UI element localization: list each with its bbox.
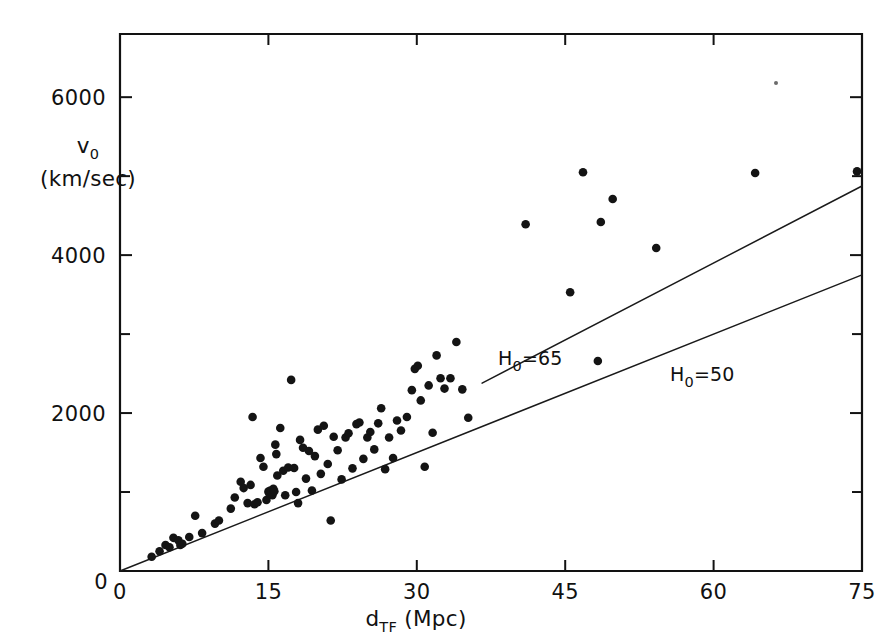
- data-point: [348, 464, 357, 473]
- artifact-speck: [774, 81, 778, 85]
- data-point: [366, 428, 375, 437]
- axis-frame-path: [120, 34, 862, 571]
- data-point: [397, 426, 406, 435]
- x-tick-label-0: 0: [113, 580, 127, 604]
- data-point: [333, 446, 342, 455]
- data-point: [359, 455, 368, 464]
- data-point: [185, 533, 194, 542]
- y-axis-label-unit: (km/sec): [40, 166, 136, 191]
- data-point: [259, 462, 268, 471]
- x-tick-labels-group: 01530456075: [113, 580, 876, 604]
- data-point: [446, 374, 455, 383]
- data-point: [308, 486, 317, 495]
- data-point: [594, 357, 603, 366]
- data-point: [292, 488, 301, 497]
- data-point: [296, 436, 305, 445]
- data-point: [302, 474, 311, 483]
- data-point: [464, 413, 473, 422]
- y-tick-label-0: 0: [94, 570, 108, 594]
- data-point: [416, 396, 425, 405]
- data-point: [608, 195, 617, 204]
- axes-frame: [120, 34, 862, 571]
- x-tick-label-15: 15: [255, 580, 283, 604]
- data-point: [377, 404, 386, 413]
- data-point: [381, 465, 390, 474]
- reference-line-H0-50: [120, 275, 862, 571]
- figure-container: 01530456075 0200040006000 v0 (km/sec) dT…: [0, 0, 890, 644]
- data-point: [579, 168, 588, 177]
- data-point: [281, 491, 290, 500]
- scatter-plot-svg: 01530456075 0200040006000 v0 (km/sec) dT…: [0, 0, 890, 644]
- data-point: [521, 220, 530, 229]
- data-point: [403, 413, 412, 422]
- data-point: [751, 169, 760, 178]
- data-point: [253, 498, 262, 507]
- y-axis-label-symbol-line: v0: [77, 133, 100, 162]
- data-point: [270, 487, 279, 496]
- data-point: [432, 351, 441, 360]
- data-point: [290, 464, 299, 473]
- x-axis-label: dTF (Mpc): [365, 606, 466, 635]
- data-point: [424, 381, 433, 390]
- data-point: [215, 516, 224, 525]
- data-point: [853, 167, 862, 176]
- data-point: [276, 424, 285, 433]
- data-point: [227, 504, 236, 513]
- data-point: [597, 218, 606, 227]
- data-point: [230, 493, 239, 502]
- data-point: [389, 454, 398, 463]
- data-point: [374, 419, 383, 428]
- data-point: [408, 386, 417, 395]
- data-point: [165, 543, 174, 552]
- annotation-H0-50: H0=50: [670, 363, 735, 390]
- data-point: [566, 288, 575, 297]
- data-point: [355, 418, 364, 427]
- data-point: [436, 374, 445, 383]
- y-axis-label: v0 (km/sec): [40, 133, 136, 191]
- data-point: [246, 481, 255, 490]
- data-point: [385, 433, 394, 442]
- hubble-constant-annotations: H0=65H0=50: [498, 347, 735, 390]
- data-point: [329, 432, 338, 441]
- data-point: [458, 385, 467, 394]
- data-point: [452, 338, 461, 347]
- y-tick-label-6000: 6000: [51, 86, 106, 110]
- artifact-specks-group: [774, 81, 778, 85]
- x-tick-label-60: 60: [700, 580, 728, 604]
- y-tick-label-2000: 2000: [51, 402, 106, 426]
- data-point: [344, 429, 353, 438]
- x-tick-label-30: 30: [403, 580, 431, 604]
- data-point: [317, 470, 326, 479]
- data-point: [326, 516, 335, 525]
- data-point: [420, 462, 429, 471]
- x-tick-label-45: 45: [551, 580, 579, 604]
- data-point: [337, 475, 346, 484]
- data-point: [652, 244, 661, 253]
- data-point: [147, 552, 156, 561]
- data-point: [413, 361, 422, 370]
- data-point: [393, 416, 402, 425]
- tick-marks-group: [120, 34, 862, 571]
- data-point: [311, 452, 320, 461]
- data-point: [248, 413, 257, 422]
- x-tick-label-75: 75: [848, 580, 876, 604]
- data-point: [440, 384, 449, 393]
- data-point: [370, 445, 379, 454]
- y-tick-labels-group: 0200040006000: [51, 86, 108, 594]
- data-point: [198, 529, 207, 538]
- reference-lines-group: [120, 186, 862, 571]
- data-point: [155, 547, 164, 556]
- y-tick-label-4000: 4000: [51, 244, 106, 268]
- data-point: [320, 421, 329, 430]
- data-point: [191, 511, 200, 520]
- data-point: [428, 429, 437, 438]
- data-point: [323, 460, 332, 469]
- data-point: [272, 450, 281, 459]
- x-axis-label-text: dTF (Mpc): [365, 606, 466, 635]
- data-point: [271, 440, 280, 449]
- data-point: [294, 499, 303, 508]
- data-point: [256, 454, 265, 463]
- data-point: [287, 376, 296, 385]
- data-point: [178, 539, 187, 548]
